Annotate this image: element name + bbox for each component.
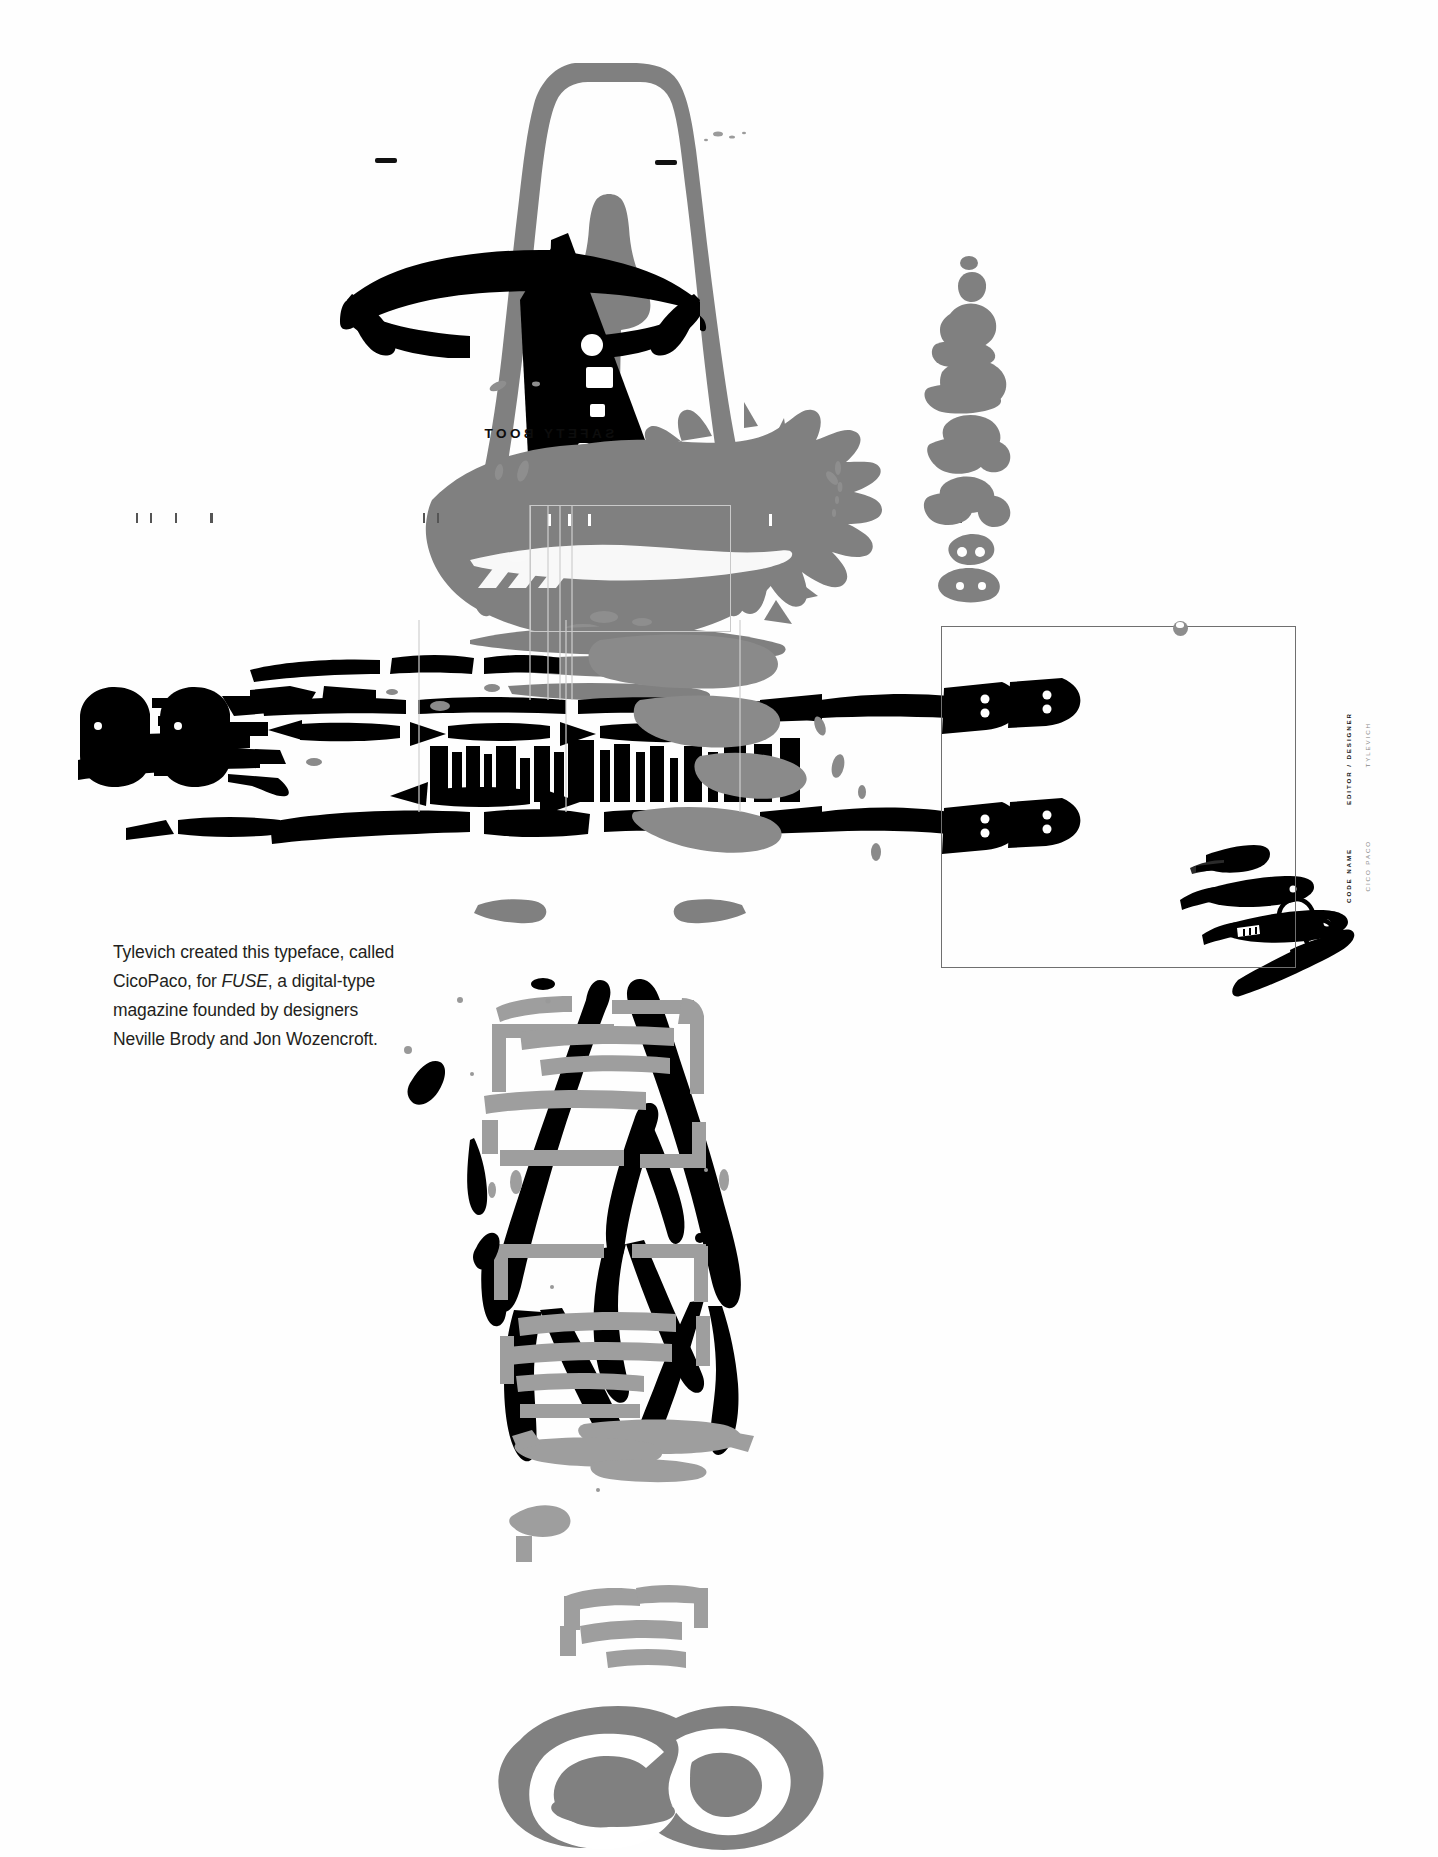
caption-line-1: Tylevich created this typeface, called bbox=[113, 942, 394, 962]
frame-corner-dot bbox=[1173, 621, 1188, 636]
instrument-frame-box bbox=[941, 626, 1296, 968]
caption-line-2a: CicoPaco, for bbox=[113, 971, 222, 991]
caption-line-2b: , a digital-type bbox=[268, 971, 375, 991]
inner-reference-frame bbox=[530, 505, 731, 632]
credit-role-value: TYLEVICH bbox=[1364, 722, 1371, 767]
specimen-page: SAFETY BOOT EDITOR / DESIGNER TYLEVICH C… bbox=[0, 0, 1438, 1857]
credit-name-value: CICO PACO bbox=[1364, 840, 1371, 891]
caption-line-3: magazine founded by designers bbox=[113, 1000, 358, 1020]
caption-magazine-title: FUSE bbox=[222, 971, 268, 991]
bottom-peanut-glyph bbox=[498, 1706, 823, 1850]
top-dust-marks bbox=[704, 132, 746, 142]
vertical-glyph-column bbox=[924, 256, 1010, 602]
credit-role-label: EDITOR / DESIGNER bbox=[1345, 712, 1352, 805]
page-caption: Tylevich created this typeface, called C… bbox=[113, 938, 403, 1054]
credit-name-label: CODE NAME bbox=[1345, 848, 1352, 903]
caption-line-4: Neville Brody and Jon Wozencroft. bbox=[113, 1029, 378, 1049]
mirrored-safety-boot-label: SAFETY BOOT bbox=[481, 426, 614, 441]
lower-gray-glyph-rows bbox=[509, 1420, 754, 1669]
